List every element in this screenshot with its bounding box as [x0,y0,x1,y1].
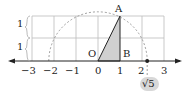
triangle-oab [98,16,120,61]
arrow-left-icon [8,59,15,64]
height-label-bottom: 1 [17,42,23,52]
tick-label-neg1: −1 [65,66,80,76]
grid [32,16,164,61]
tick-label-0: 0 [95,66,101,76]
tick-label-1: 1 [117,66,123,76]
tick-label-3: 3 [161,66,167,76]
sqrt5-label: √5 [142,79,155,89]
height-label-top: 1 [17,19,23,29]
tick-label-2: 2 [138,66,144,76]
point-o-label: O [88,49,96,59]
point-a-label: A [115,4,122,14]
tick-label-neg2: −2 [43,66,58,76]
tick-label-neg3: −3 [21,66,36,76]
point-b-label: B [123,49,130,59]
sqrt5-point [145,59,149,63]
brace-top [25,16,30,38]
arrow-right-icon [175,59,182,64]
brace-bottom [25,38,30,61]
